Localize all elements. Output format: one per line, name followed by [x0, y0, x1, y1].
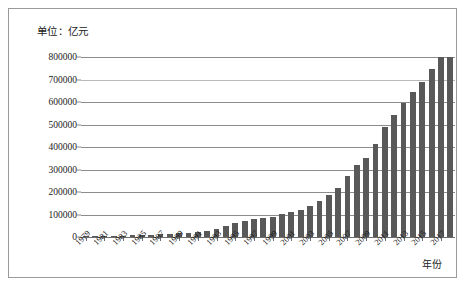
bar [335, 188, 341, 237]
bar [363, 158, 369, 237]
bar [429, 69, 435, 237]
bar [419, 82, 425, 237]
x-axis-title: 年份 [422, 256, 442, 271]
bar [410, 92, 416, 237]
x-axis-tick-group: 1979198119831985198719891991199319951997… [81, 238, 455, 282]
bar [438, 57, 444, 237]
bar [373, 144, 379, 237]
plot-area [81, 57, 455, 237]
y-axis-tick-label: 400000 [49, 142, 78, 152]
y-axis-tick-label: 100000 [49, 210, 78, 220]
chart-frame: 单位：亿元 0100000200000300000400000500000600… [8, 8, 457, 278]
y-axis-tick-label: 300000 [49, 165, 78, 175]
y-axis-tick-label: 600000 [49, 97, 78, 107]
bar [391, 115, 397, 237]
bar [382, 127, 388, 237]
bar [354, 165, 360, 237]
bar [317, 201, 323, 237]
y-axis-tick-group: 0100000200000300000400000500000600000700… [9, 9, 81, 288]
y-axis-tick-label: 700000 [49, 75, 78, 85]
y-axis-tick-label: 500000 [49, 120, 78, 130]
bar [447, 57, 453, 237]
y-axis-tick-label: 800000 [49, 52, 78, 62]
bar-series [81, 57, 455, 237]
y-axis-tick-label: 200000 [49, 187, 78, 197]
bar [401, 103, 407, 237]
